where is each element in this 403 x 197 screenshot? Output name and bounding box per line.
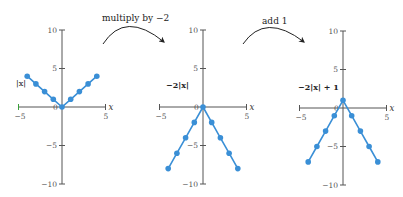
data-point bbox=[174, 150, 180, 156]
origin-label: 0 bbox=[194, 103, 199, 112]
data-point bbox=[42, 89, 48, 95]
data-point bbox=[192, 120, 198, 126]
data-point bbox=[51, 97, 57, 103]
x-tick-label: −5 bbox=[156, 112, 167, 121]
data-point bbox=[332, 113, 338, 119]
transform-label-add: add 1 bbox=[262, 16, 287, 26]
x-axis-label: x bbox=[390, 103, 395, 113]
transform-label-multiply: multiply by −2 bbox=[102, 13, 169, 23]
y-tick-label: 10 bbox=[188, 26, 198, 35]
data-point bbox=[314, 144, 320, 150]
data-point bbox=[375, 159, 381, 165]
y-tick-label: 5 bbox=[52, 64, 57, 73]
data-point bbox=[305, 159, 311, 165]
function-label: −2|x| bbox=[166, 80, 189, 90]
transform-arrow-add: add 1 bbox=[243, 16, 304, 44]
origin-label: 0 bbox=[53, 103, 58, 112]
y-tick-label: 10 bbox=[47, 26, 57, 35]
y-tick-label: −5 bbox=[46, 141, 57, 150]
function-label: −2|x| + 1 bbox=[298, 82, 339, 92]
x-tick-label: 5 bbox=[104, 112, 109, 121]
x-tick-label: 5 bbox=[245, 112, 250, 121]
y-tick-label: −10 bbox=[182, 180, 198, 189]
transform-arrow-multiply: multiply by −2 bbox=[102, 13, 169, 44]
data-point bbox=[323, 128, 329, 134]
curved-arrow-icon bbox=[243, 27, 304, 44]
data-point bbox=[366, 144, 372, 150]
y-tick-label: 5 bbox=[333, 65, 338, 74]
data-point bbox=[59, 104, 65, 110]
x-tick-label: 5 bbox=[385, 113, 390, 122]
y-tick-label: −5 bbox=[327, 142, 338, 151]
x-axis-label: x bbox=[109, 102, 114, 112]
data-point bbox=[33, 81, 39, 87]
y-tick-label: −5 bbox=[187, 141, 198, 150]
data-point bbox=[349, 113, 355, 119]
data-point bbox=[209, 120, 215, 126]
graph-3: −505x105−5−10−2|x| + 1 bbox=[296, 27, 395, 190]
data-point bbox=[85, 81, 91, 87]
y-tick-label: −10 bbox=[41, 180, 57, 189]
data-point bbox=[218, 135, 224, 141]
data-point bbox=[235, 166, 241, 172]
data-point bbox=[183, 135, 189, 141]
graph-1: −505x105−5−10|x| bbox=[15, 26, 114, 189]
data-point bbox=[94, 73, 100, 79]
curved-arrow-icon bbox=[103, 26, 164, 44]
data-point bbox=[68, 97, 74, 103]
graph-2: −505x105−5−10−2|x| bbox=[156, 26, 255, 189]
function-label: |x| bbox=[16, 79, 26, 88]
y-tick-label: 5 bbox=[193, 64, 198, 73]
data-point bbox=[358, 128, 364, 134]
data-point bbox=[200, 104, 206, 110]
y-tick-label: 10 bbox=[328, 27, 338, 36]
x-axis-label: x bbox=[250, 102, 255, 112]
data-point bbox=[77, 89, 83, 95]
x-tick-label: −5 bbox=[296, 113, 307, 122]
data-point bbox=[226, 150, 232, 156]
y-tick-label: −10 bbox=[322, 181, 338, 190]
x-tick-label: −5 bbox=[15, 112, 26, 121]
data-point bbox=[165, 166, 171, 172]
transformation-diagram: multiply by −2 add 1 −505x105−5−10|x|−50… bbox=[0, 0, 403, 197]
data-point bbox=[24, 73, 30, 79]
data-point bbox=[340, 98, 346, 104]
